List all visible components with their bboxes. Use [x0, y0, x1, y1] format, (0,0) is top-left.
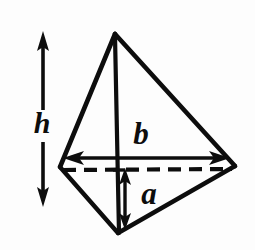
label-apothem: a	[141, 176, 157, 211]
tetrahedron-figure: h b a	[0, 0, 255, 250]
label-base: b	[133, 116, 149, 151]
tetrahedron-diagram-container: h b a	[0, 0, 255, 250]
label-height: h	[34, 106, 51, 139]
